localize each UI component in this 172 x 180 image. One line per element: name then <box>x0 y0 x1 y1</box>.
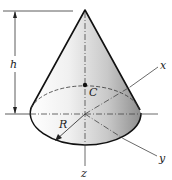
cone-diagram: h z x y R C <box>0 0 172 180</box>
centroid-point <box>83 83 87 87</box>
x-axis-label: x <box>160 59 167 72</box>
radius-label: R <box>58 118 67 131</box>
centroid-label: C <box>89 86 98 99</box>
y-axis <box>124 139 157 156</box>
arrow-up-icon <box>13 11 17 18</box>
arrow-down-icon <box>13 107 17 114</box>
y-axis-label: y <box>158 152 166 165</box>
z-axis-label: z <box>80 167 87 180</box>
x-axis <box>130 67 158 87</box>
height-label: h <box>10 58 17 71</box>
